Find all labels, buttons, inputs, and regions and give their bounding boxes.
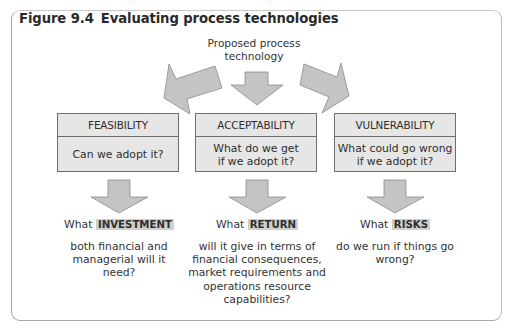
box-question: Can we adopt it? xyxy=(58,137,178,161)
result-line: need? xyxy=(44,266,194,279)
result-line: will it give in terms of xyxy=(182,240,332,253)
result-description: both financial and managerial will it ne… xyxy=(44,240,194,280)
result-line: do we run if things go xyxy=(320,240,470,253)
result-line: market requirements and xyxy=(182,266,332,279)
result-prefix: What xyxy=(360,218,388,231)
result-heading: What RISKS xyxy=(320,218,470,232)
result-line: operations resource xyxy=(182,280,332,293)
result-prefix: What xyxy=(216,218,244,231)
risks-result: What RISKS do we run if things go wrong? xyxy=(320,218,470,266)
box-heading: FEASIBILITY xyxy=(58,114,178,137)
box-question-line: What do we get xyxy=(196,142,316,155)
result-keyword: RISKS xyxy=(392,219,430,230)
result-line: capabilities? xyxy=(182,293,332,306)
box-heading: VULNERABILITY xyxy=(335,114,455,137)
result-line: wrong? xyxy=(320,253,470,266)
result-heading: What RETURN xyxy=(182,218,332,232)
box-question-line: if we adopt it? xyxy=(196,155,316,168)
result-keyword: RETURN xyxy=(248,219,298,230)
vulnerability-box: VULNERABILITY What could go wrong if we … xyxy=(334,113,456,172)
result-line: both financial and xyxy=(44,240,194,253)
arrow-to-vulnerability-icon xyxy=(300,63,349,113)
result-line: managerial will it xyxy=(44,253,194,266)
acceptability-box: ACCEPTABILITY What do we get if we adopt… xyxy=(195,113,317,172)
feasibility-box: FEASIBILITY Can we adopt it? xyxy=(57,113,179,172)
arrow-to-acceptability-icon xyxy=(231,72,283,105)
box-question-line: What could go wrong xyxy=(335,142,455,155)
arrow-down-vulnerability-icon xyxy=(367,180,424,213)
arrow-to-feasibility-icon xyxy=(164,64,222,114)
box-question: What do we get if we adopt it? xyxy=(196,137,316,168)
result-heading: What INVESTMENT xyxy=(44,218,194,232)
box-question: What could go wrong if we adopt it? xyxy=(335,137,455,168)
box-question-line: if we adopt it? xyxy=(335,155,455,168)
return-result: What RETURN will it give in terms of fin… xyxy=(182,218,332,306)
arrow-down-feasibility-icon xyxy=(91,180,148,213)
box-heading: ACCEPTABILITY xyxy=(196,114,316,137)
result-prefix: What xyxy=(64,218,92,231)
arrow-down-acceptability-icon xyxy=(229,180,286,213)
result-description: do we run if things go wrong? xyxy=(320,240,470,266)
box-question-line: Can we adopt it? xyxy=(58,148,178,161)
result-description: will it give in terms of financial conse… xyxy=(182,240,332,306)
investment-result: What INVESTMENT both financial and manag… xyxy=(44,218,194,280)
result-keyword: INVESTMENT xyxy=(96,219,174,230)
result-line: financial consequences, xyxy=(182,253,332,266)
